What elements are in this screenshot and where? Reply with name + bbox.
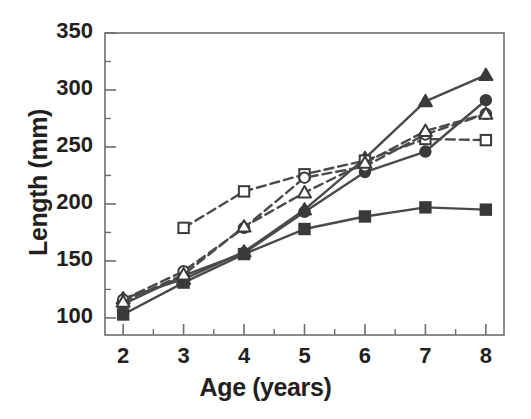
x-tick-label: 4 xyxy=(224,343,264,369)
plot-frame xyxy=(105,33,504,335)
y-tick-label: 150 xyxy=(33,246,93,272)
x-tick-label: 2 xyxy=(103,343,143,369)
x-tick-label: 7 xyxy=(405,343,445,369)
x-tick-label: 3 xyxy=(164,343,204,369)
data-point-circle-solid xyxy=(481,95,491,105)
data-point-square-solid xyxy=(299,224,309,234)
series-filled-square xyxy=(118,202,491,320)
data-point-square-solid xyxy=(118,309,128,319)
data-point-square-open xyxy=(481,135,491,145)
x-tick-label: 5 xyxy=(285,343,325,369)
data-point-square-solid xyxy=(360,211,370,221)
data-point-triangle-solid xyxy=(479,69,492,80)
y-tick-label: 100 xyxy=(33,303,93,329)
y-tick-label: 300 xyxy=(33,75,93,101)
data-point-square-solid xyxy=(481,204,491,214)
y-tick-label: 200 xyxy=(33,189,93,215)
data-point-square-solid xyxy=(239,249,249,259)
y-tick-label: 250 xyxy=(33,132,93,158)
y-tick-label: 350 xyxy=(33,18,93,44)
line-chart-figure: Length (mm) Age (years) 1001502002503003… xyxy=(0,0,531,419)
data-point-square-open xyxy=(178,223,188,233)
data-point-circle-open xyxy=(299,173,309,183)
data-point-square-open xyxy=(239,186,249,196)
data-point-square-solid xyxy=(420,202,430,212)
x-tick-label: 6 xyxy=(345,343,385,369)
data-point-circle-solid xyxy=(420,146,430,156)
x-tick-label: 8 xyxy=(466,343,506,369)
data-point-triangle-open xyxy=(298,186,311,197)
data-point-circle-solid xyxy=(299,207,309,217)
